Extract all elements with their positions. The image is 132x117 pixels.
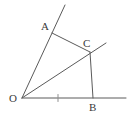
geometry-canvas: [0, 0, 132, 117]
vertex-label-A: A: [41, 21, 49, 32]
vertex-label-B: B: [89, 102, 96, 113]
geometry-figure: O A C B: [0, 0, 132, 117]
vertex-label-C: C: [83, 38, 90, 49]
vertex-label-O: O: [9, 93, 17, 104]
segment-CB: [90, 52, 93, 98]
